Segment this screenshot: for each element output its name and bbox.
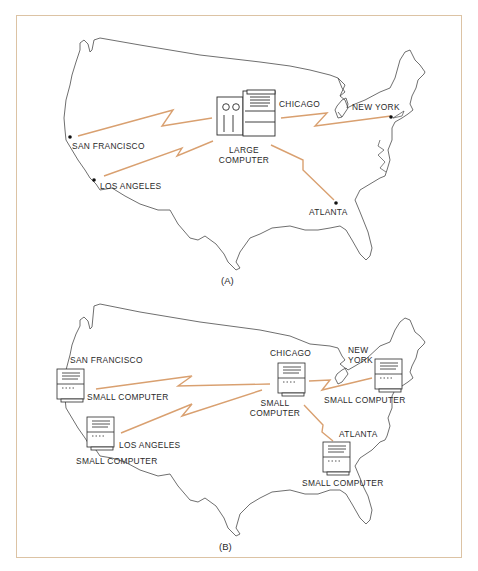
label-chicago-b: CHICAGO (270, 348, 311, 358)
chicago-computer-line2: COMPUTER (245, 408, 305, 418)
label-new-york-b: NEW YORK (348, 345, 373, 365)
la-dot (92, 178, 96, 182)
new-york-line2: YORK (348, 355, 373, 365)
label-san-francisco-a: SAN FRANCISCO (72, 141, 145, 151)
label-chicago-computer: SMALL COMPUTER (245, 398, 305, 418)
chesapeake-a (378, 140, 386, 172)
link-chicago-ny (281, 113, 391, 126)
caption-b: (B) (219, 541, 232, 552)
label-sf-computer: SMALL COMPUTER (87, 392, 169, 402)
sf-dot (68, 135, 72, 139)
chicago-computer-line1: SMALL (245, 398, 305, 408)
label-ny-computer: SMALL COMPUTER (324, 395, 406, 405)
large-computer-line1: LARGE (215, 145, 273, 155)
link-sf-chicago (78, 110, 212, 136)
large-computer-icon (217, 90, 275, 136)
label-chicago-a: CHICAGO (279, 99, 320, 109)
caption-a: (A) (221, 275, 234, 286)
label-new-york-a: NEW YORK (352, 102, 400, 112)
atlanta-dot (334, 201, 338, 205)
label-atlanta-computer: SMALL COMPUTER (302, 478, 384, 488)
label-atlanta-a: ATLANTA (309, 207, 348, 217)
new-york-line1: NEW (348, 345, 373, 355)
ny-dot (389, 115, 393, 119)
label-los-angeles-a: LOS ANGELES (100, 181, 162, 191)
label-atlanta-b: ATLANTA (339, 429, 378, 439)
label-los-angeles-b: LOS ANGELES (119, 440, 181, 450)
link-chicago-atlanta (271, 145, 334, 200)
long-island-a (393, 111, 404, 118)
label-large-computer: LARGE COMPUTER (215, 145, 273, 165)
label-san-francisco-b: SAN FRANCISCO (70, 355, 143, 365)
label-la-computer: SMALL COMPUTER (76, 456, 158, 466)
large-computer-line2: COMPUTER (215, 155, 273, 165)
